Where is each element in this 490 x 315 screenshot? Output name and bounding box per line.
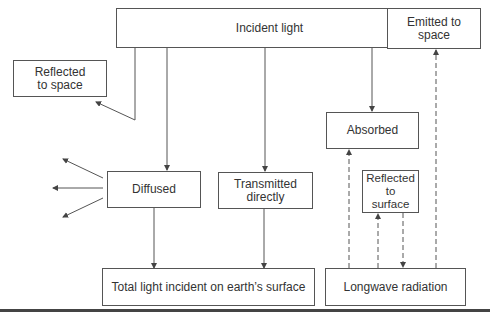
node-total-light-label: Total light incident on earth’s surface xyxy=(112,281,306,294)
node-reflected-surface-line3: surface xyxy=(372,198,410,211)
node-absorbed: Absorbed xyxy=(326,112,419,149)
node-reflected-surface-line2: to xyxy=(386,185,396,198)
node-emitted-label-line1: Emitted to xyxy=(407,16,461,29)
edge-diffused-scatter-up xyxy=(63,159,103,178)
node-longwave-radiation: Longwave radiation xyxy=(325,268,466,306)
node-reflected-to-surface: Reflected to surface xyxy=(362,170,419,213)
node-diffused: Diffused xyxy=(107,171,201,208)
node-incident-light: Incident light xyxy=(116,8,423,48)
node-emitted-label-line2: space xyxy=(418,29,450,42)
node-longwave-label: Longwave radiation xyxy=(343,281,447,294)
node-total-light: Total light incident on earth’s surface xyxy=(102,268,315,306)
node-absorbed-label: Absorbed xyxy=(347,124,398,137)
node-diffused-label: Diffused xyxy=(132,183,176,196)
node-transmitted-line2: directly xyxy=(246,191,284,204)
node-transmitted-directly: Transmitted directly xyxy=(218,172,313,209)
node-reflected-space-line1: Reflected xyxy=(35,66,86,79)
node-incident-light-label: Incident light xyxy=(236,22,303,35)
bottom-divider xyxy=(0,309,490,312)
node-transmitted-line1: Transmitted xyxy=(234,178,297,191)
node-emitted-to-space: Emitted to space xyxy=(387,8,481,49)
node-reflected-to-space: Reflected to space xyxy=(13,60,107,97)
node-reflected-surface-line1: Reflected xyxy=(366,172,415,185)
edge-diffused-scatter-down xyxy=(63,198,103,217)
node-reflected-space-line2: to space xyxy=(37,79,82,92)
